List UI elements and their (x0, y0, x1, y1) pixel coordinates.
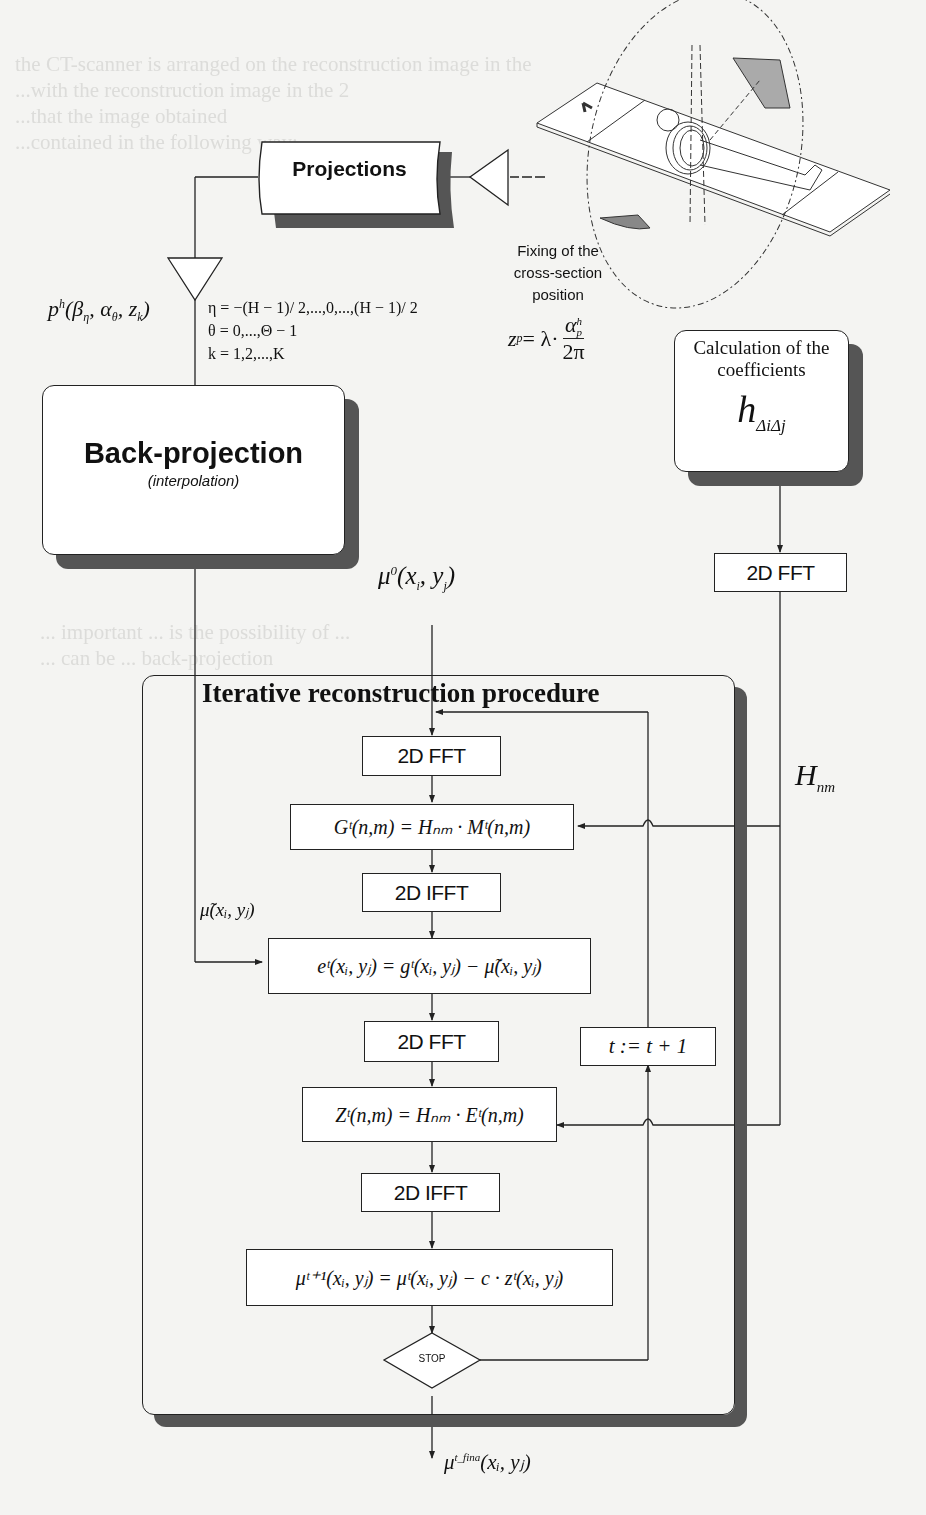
alpha-symbol: α (565, 312, 577, 337)
coefficients-line2: coefficients (717, 359, 805, 381)
coefficients-line1: Calculation of the (693, 337, 829, 359)
caption-line: Fixing of the (498, 240, 618, 262)
mu0-label: μ0(xi, yj) (378, 562, 455, 594)
arg: (x (397, 562, 416, 589)
eta-range: η = −(H − 1)/ 2,...,0,...,(H − 1)/ 2 (208, 296, 418, 319)
arg: ) (143, 296, 150, 321)
projections-node: Projections (262, 157, 437, 181)
Z-equation-node: Zᵗ(n,m) = Hₙₘ · Eᵗ(n,m) (302, 1087, 557, 1142)
iterative-procedure-title: Iterative reconstruction procedure (202, 678, 599, 709)
theta-range: θ = 0,...,Θ − 1 (208, 319, 418, 342)
back-projection-subtitle: (interpolation) (148, 472, 240, 489)
G-equation-node: Gᵗ(n,m) = Hₙₘ · Mᵗ(n,m) (290, 804, 574, 850)
scanner-caption: Fixing of the cross-section position (498, 240, 618, 306)
ifft-node-2: 2D IFFT (361, 1173, 500, 1212)
mu-update-node: μᵗ⁺¹(xᵢ, yⱼ) = μᵗ(xᵢ, yⱼ) − c · zᵗ(xᵢ, y… (246, 1249, 613, 1306)
back-projection-node: Back-projection (interpolation) (42, 385, 345, 555)
arg: , z (118, 296, 138, 321)
alpha-sub: p (577, 327, 583, 338)
coefficients-node: Calculation of the coefficients hΔiΔj (674, 330, 849, 472)
arg: ) (447, 562, 455, 589)
fft-node-2: 2D FFT (364, 1021, 499, 1062)
ifft-node-1: 2D IFFT (362, 873, 501, 912)
back-projection-title: Back-projection (84, 437, 303, 470)
arg: (xᵢ, yⱼ) (480, 1450, 530, 1474)
z-position-formula: zp = λ· αhp 2π (508, 312, 585, 365)
caption-line: position (498, 284, 618, 306)
sup: t_fina (455, 1451, 481, 1463)
arg: , y (420, 562, 444, 589)
H-subscript: nm (817, 779, 835, 795)
mu-final-label: μt_fina(xᵢ, yⱼ) (444, 1450, 531, 1475)
t-update-node: t := t + 1 (580, 1027, 716, 1066)
index-ranges: η = −(H − 1)/ 2,...,0,...,(H − 1)/ 2 θ =… (208, 296, 418, 365)
H-nm-label: Hnm (795, 758, 835, 796)
fft-coefficients-node: 2D FFT (714, 553, 847, 592)
mu-tilde-label: μ̃(xᵢ, yⱼ) (200, 898, 255, 921)
mu: μ (444, 1450, 455, 1474)
caption-line: cross-section (498, 262, 618, 284)
projection-data-symbol: ph(βη, αθ, zk) (48, 296, 150, 325)
formula-denominator: 2π (562, 339, 584, 365)
stop-decision: STOP (402, 1353, 462, 1364)
formula-operator: = λ· (523, 326, 559, 352)
mu: μ (378, 562, 391, 589)
k-range: k = 1,2,...,K (208, 342, 418, 365)
z-symbol: z (508, 326, 517, 352)
H-symbol: H (795, 758, 817, 791)
arg: , α (89, 296, 112, 321)
arg: (β (65, 296, 83, 321)
h-symbol: h (737, 388, 756, 430)
h-subscript: ΔiΔj (756, 416, 785, 435)
fft-node-1: 2D FFT (362, 736, 501, 776)
error-equation-node: eᵗ(xᵢ, yⱼ) = gᵗ(xᵢ, yⱼ) − μ̃(xᵢ, yⱼ) (268, 938, 591, 994)
p-symbol: p (48, 296, 59, 321)
